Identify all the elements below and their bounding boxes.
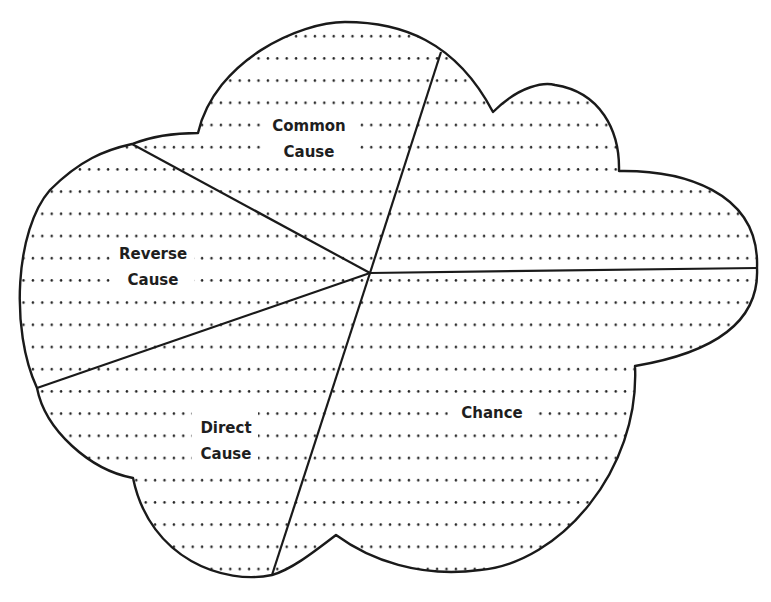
label-direct-cause-line2: Cause [201,445,252,463]
label-reverse-cause-line1: Reverse [119,245,187,263]
cloud-outline [20,22,757,577]
label-reverse-cause-line2: Cause [128,271,179,289]
cloud-diagram: Common Cause Reverse Cause Direct Cause … [0,0,771,602]
label-common-cause-line2: Cause [284,143,335,161]
label-direct-cause-line1: Direct [200,419,251,437]
label-common-cause-line1: Common [272,117,346,135]
label-chance: Chance [461,404,523,422]
